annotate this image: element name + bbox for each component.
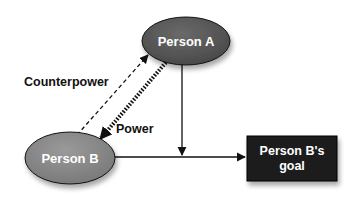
counterpower-label: Counterpower [24,76,109,89]
power-label: Power [116,123,154,136]
power-diagram: Person A Person B Person B's goal [0,0,358,199]
goal-label-line1: Person B's [260,144,325,158]
person-b-label: Person B [41,151,98,166]
goal-label-line2: goal [279,159,305,173]
person-a-label: Person A [158,34,215,49]
